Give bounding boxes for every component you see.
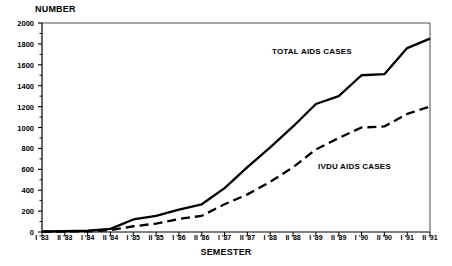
series-label-ivdu-aids-cases: IVDU AIDS CASES bbox=[318, 162, 391, 171]
y-tick-label: 800 bbox=[8, 144, 34, 153]
y-tick-label: 1800 bbox=[8, 40, 34, 49]
y-tick-label: 200 bbox=[8, 207, 34, 216]
y-tick-label: 1000 bbox=[8, 124, 34, 133]
x-tick-label: II '91 bbox=[414, 234, 446, 241]
x-axis-title: SEMESTER bbox=[0, 247, 452, 257]
y-tick-label: 1200 bbox=[8, 103, 34, 112]
y-tick-label: 2000 bbox=[8, 19, 34, 28]
chart-figure: NUMBER SEMESTER TOTAL AIDS CASES IVDU AI… bbox=[0, 0, 452, 266]
data-series-lines bbox=[42, 39, 430, 232]
y-tick-label: 600 bbox=[8, 165, 34, 174]
y-tick-label: 400 bbox=[8, 186, 34, 195]
y-axis-title: NUMBER bbox=[35, 4, 76, 14]
y-tick-label: 1400 bbox=[8, 82, 34, 91]
series-label-total-aids-cases: TOTAL AIDS CASES bbox=[272, 47, 352, 56]
plot-canvas bbox=[0, 0, 452, 266]
y-tick-label: 1600 bbox=[8, 61, 34, 70]
axis-ticks bbox=[38, 23, 430, 236]
